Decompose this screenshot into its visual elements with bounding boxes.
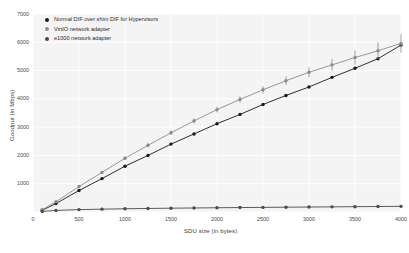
x-tick-label: 500: [64, 216, 94, 222]
data-point: [169, 131, 172, 134]
y-tick-label: 5000: [1, 67, 29, 73]
data-point: [100, 177, 103, 180]
series-1: [41, 34, 403, 211]
data-point: [261, 103, 264, 106]
data-point: [192, 132, 195, 135]
x-tick-label: 1000: [110, 216, 140, 222]
data-point: [77, 185, 80, 188]
data-point: [123, 157, 126, 160]
series-0: [41, 43, 403, 212]
data-point: [238, 98, 241, 101]
data-point: [238, 206, 241, 209]
data-point: [169, 142, 172, 145]
data-point: [238, 113, 241, 116]
series-line: [42, 206, 401, 211]
data-point: [330, 63, 333, 66]
x-tick-label: 3500: [340, 216, 370, 222]
data-point: [353, 67, 356, 70]
data-point: [284, 94, 287, 97]
data-point: [146, 207, 149, 210]
data-point: [330, 205, 333, 208]
data-point: [284, 79, 287, 82]
chart-legend: Normal DIF over shim DIF for Hypervisors…: [45, 16, 158, 42]
y-tick-label: 3000: [1, 124, 29, 130]
y-tick-label: 1000: [1, 180, 29, 186]
data-point: [399, 205, 402, 208]
legend-marker-icon: [45, 27, 49, 31]
data-point: [146, 144, 149, 147]
data-point: [284, 205, 287, 208]
data-point: [54, 200, 57, 203]
data-point: [192, 119, 195, 122]
series-line: [42, 45, 401, 210]
data-point: [123, 207, 126, 210]
data-point: [77, 189, 80, 192]
series-layer: [41, 34, 403, 213]
data-point: [399, 42, 402, 45]
data-point: [146, 154, 149, 157]
x-tick-label: 1500: [156, 216, 186, 222]
data-point: [307, 205, 310, 208]
data-point: [307, 85, 310, 88]
legend-marker-icon: [45, 37, 49, 41]
data-point: [123, 164, 126, 167]
data-point: [77, 208, 80, 211]
legend-label: Normal DIF over shim DIF for Hypervisors: [54, 16, 158, 23]
gridlines: [33, 14, 401, 212]
data-point: [169, 206, 172, 209]
data-point: [41, 210, 44, 213]
legend-item-0[interactable]: Normal DIF over shim DIF for Hypervisors: [45, 16, 158, 23]
series-line: [42, 43, 401, 209]
x-tick-label: 0: [18, 216, 48, 222]
data-point: [261, 88, 264, 91]
y-tick-label: 7000: [1, 11, 29, 17]
data-point: [330, 76, 333, 79]
x-axis-label: SDU size (in bytes): [184, 228, 237, 234]
y-tick-label: 6000: [1, 39, 29, 45]
data-point: [100, 171, 103, 174]
data-point: [261, 206, 264, 209]
data-point: [54, 209, 57, 212]
legend-marker-icon: [45, 18, 49, 22]
legend-label: VirtIO network adapter: [54, 26, 110, 33]
data-point: [215, 206, 218, 209]
data-point: [215, 122, 218, 125]
data-point: [192, 206, 195, 209]
legend-item-1[interactable]: VirtIO network adapter: [45, 26, 158, 33]
data-point: [100, 207, 103, 210]
y-axis-label: Goodput (in Mbps): [9, 90, 15, 141]
data-point: [376, 205, 379, 208]
data-point: [215, 108, 218, 111]
x-tick-label: 2000: [202, 216, 232, 222]
legend-item-2[interactable]: e1000 network adapter: [45, 35, 158, 42]
data-point: [353, 205, 356, 208]
x-tick-label: 4000: [386, 216, 409, 222]
legend-label: e1000 network adapter: [54, 35, 111, 42]
data-point: [307, 71, 310, 74]
y-tick-label: 2000: [1, 152, 29, 158]
data-point: [353, 56, 356, 59]
x-tick-label: 2500: [248, 216, 278, 222]
x-tick-label: 3000: [294, 216, 324, 222]
chart-figure: 1000200030004000500060007000 05001000150…: [0, 0, 409, 253]
data-point: [376, 49, 379, 52]
y-tick-label: 4000: [1, 95, 29, 101]
